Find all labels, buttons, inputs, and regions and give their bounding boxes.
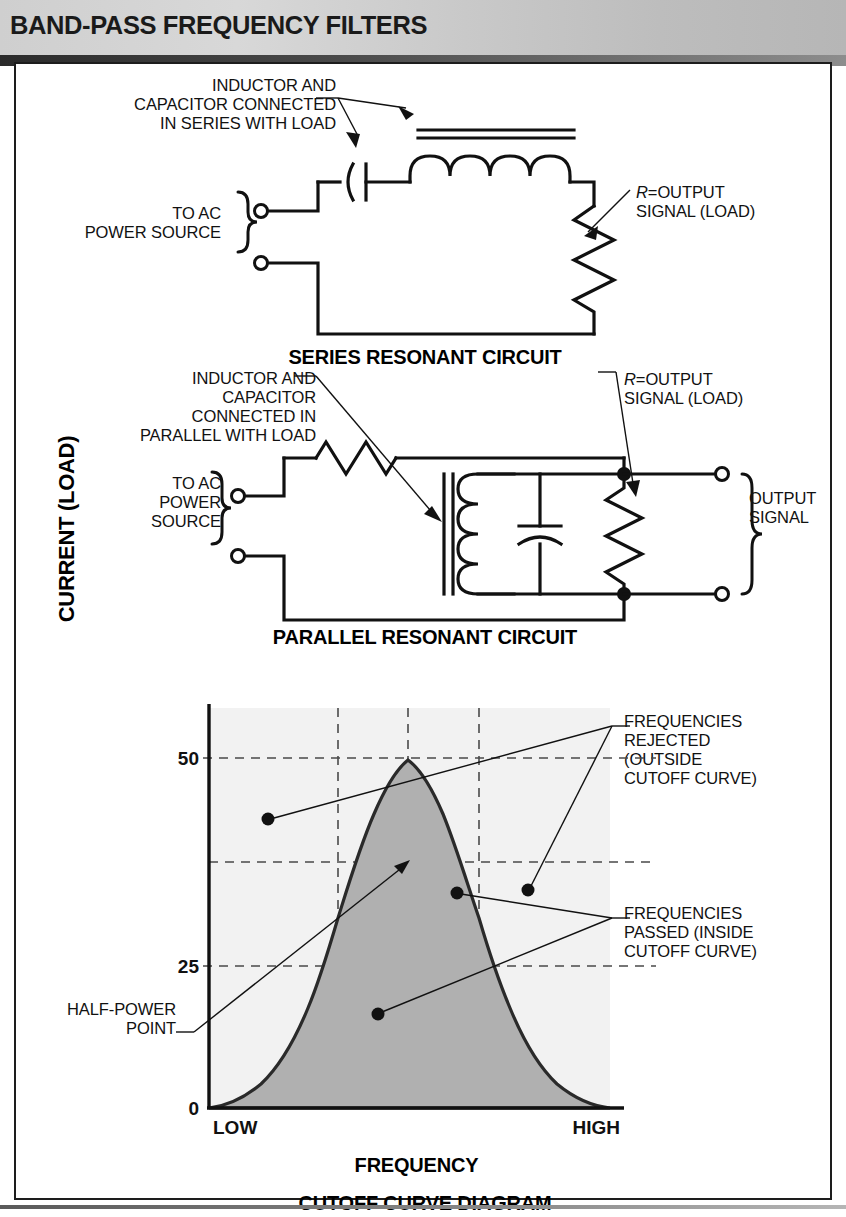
series-wire-bottom xyxy=(268,263,594,334)
series-arrowhead-capacitor xyxy=(346,132,360,148)
series-wire-top-left xyxy=(268,182,318,211)
parallel-arrowhead-transformer xyxy=(424,506,442,522)
annotation-dot-passed-lower xyxy=(372,1008,385,1021)
annotation-dot-rejected-left xyxy=(262,813,275,826)
chart-xtick-low: LOW xyxy=(213,1117,257,1138)
series-inductor-coil xyxy=(410,156,570,182)
parallel-source-brace xyxy=(212,472,231,544)
parallel-leader-line-transformer xyxy=(316,376,436,517)
parallel-arrowhead-load xyxy=(626,480,640,497)
parallel-output-brace xyxy=(742,474,762,594)
series-terminal-bottom xyxy=(255,257,268,270)
chart-ytick-25: 25 xyxy=(178,956,200,977)
series-capacitor-curved-plate xyxy=(348,164,353,200)
parallel-resistor-horizontal xyxy=(316,442,396,474)
chart-ytick-0: 0 xyxy=(188,1098,199,1119)
series-terminal-top xyxy=(255,205,268,218)
cutoff-chart-caption: CUTOFF CURVE DIAGRAM xyxy=(16,1192,834,1215)
cutoff-chart-svg: 50 25 0 LOW xyxy=(16,694,834,1114)
series-arrowhead-inductor xyxy=(398,106,414,120)
parallel-wire-bottom xyxy=(245,556,624,620)
footer-divider xyxy=(0,1205,846,1209)
series-source-brace xyxy=(238,192,257,252)
parallel-wire-top-left xyxy=(245,458,284,496)
page-title: BAND-PASS FREQUENCY FILTERS xyxy=(10,11,427,40)
series-wire-right-top xyxy=(570,182,594,206)
series-leader-line-inductor xyxy=(338,98,406,108)
chart-ytick-50: 50 xyxy=(178,748,199,769)
diagram-page: BAND-PASS FREQUENCY FILTERS INDUCTOR AND… xyxy=(0,0,846,1217)
parallel-output-terminal-bottom xyxy=(716,588,729,601)
annotation-dot-rejected-right xyxy=(522,884,535,897)
parallel-transformer-secondary-coil xyxy=(458,474,514,594)
parallel-terminal-bottom xyxy=(232,550,245,563)
parallel-circuit-caption: PARALLEL RESONANT CIRCUIT xyxy=(16,626,834,649)
chart-xtick-high: HIGH xyxy=(573,1117,621,1138)
chart-y-axis-label: CURRENT (LOAD) xyxy=(54,414,80,644)
series-circuit-svg xyxy=(16,64,834,354)
chart-x-axis-title: FREQUENCY xyxy=(209,1154,624,1177)
content-frame: INDUCTOR AND CAPACITOR CONNECTED IN SERI… xyxy=(14,62,832,1200)
parallel-terminal-top xyxy=(232,490,245,503)
parallel-circuit-svg xyxy=(16,354,834,644)
series-leader-line-capacitor xyxy=(338,98,358,136)
parallel-output-terminal-top xyxy=(716,468,729,481)
annotation-dot-passed-upper xyxy=(451,887,464,900)
